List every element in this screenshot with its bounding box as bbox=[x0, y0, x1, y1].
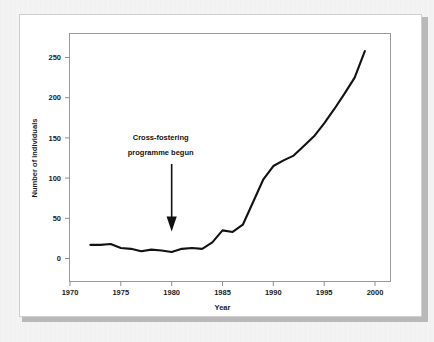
y-tick-label-100: 100 bbox=[48, 174, 61, 183]
y-axis: 0 50 100 150 200 250 bbox=[48, 53, 69, 263]
y-tick-label-150: 150 bbox=[48, 134, 61, 143]
line-chart-svg: 0 50 100 150 200 250 Number of individua… bbox=[19, 14, 422, 317]
x-tick-label-1995: 1995 bbox=[316, 288, 333, 297]
x-tick-label-1980: 1980 bbox=[163, 288, 180, 297]
annotation-line-1: Cross-fostering bbox=[133, 133, 189, 142]
y-tick-label-250: 250 bbox=[48, 53, 61, 62]
chart-figure: 0 50 100 150 200 250 Number of individua… bbox=[19, 14, 422, 317]
annotation-line-2: programme begun bbox=[128, 148, 194, 157]
x-axis-title: Year bbox=[215, 303, 231, 312]
x-tick-label-2000: 2000 bbox=[367, 288, 384, 297]
page-root: 0 50 100 150 200 250 Number of individua… bbox=[0, 0, 434, 342]
plot-frame bbox=[70, 34, 391, 282]
y-tick-label-0: 0 bbox=[57, 254, 61, 263]
y-tick-label-50: 50 bbox=[53, 214, 61, 223]
x-tick-label-1975: 1975 bbox=[112, 288, 129, 297]
y-tick-label-200: 200 bbox=[48, 93, 61, 102]
x-axis: 1970 1975 1980 1985 1990 1995 2000 bbox=[62, 282, 384, 298]
y-axis-title: Number of individuals bbox=[30, 119, 39, 198]
x-tick-label-1970: 1970 bbox=[62, 288, 79, 297]
x-tick-label-1985: 1985 bbox=[214, 288, 231, 297]
x-tick-label-1990: 1990 bbox=[265, 288, 282, 297]
